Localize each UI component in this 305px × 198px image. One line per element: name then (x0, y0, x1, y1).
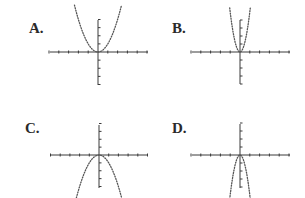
graph-panel-d: D. (152, 99, 305, 198)
graph-c (0, 99, 152, 198)
graph-b (152, 0, 305, 99)
graph-d (152, 99, 305, 198)
graph-panel-a: A. (0, 0, 152, 99)
graph-panel-c: C. (0, 99, 152, 198)
graph-a (0, 0, 152, 99)
graph-panel-b: B. (152, 0, 305, 99)
